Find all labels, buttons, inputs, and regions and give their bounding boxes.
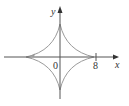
tick-label-8: 8 <box>93 60 98 71</box>
origin-label: 0 <box>53 60 58 71</box>
y-axis-label: y <box>50 6 56 17</box>
direction-arrow-icon <box>30 54 35 58</box>
astroid-diagram: y x 0 8 <box>0 0 129 106</box>
y-axis-arrow-icon <box>58 6 63 13</box>
x-axis-label: x <box>114 59 120 70</box>
